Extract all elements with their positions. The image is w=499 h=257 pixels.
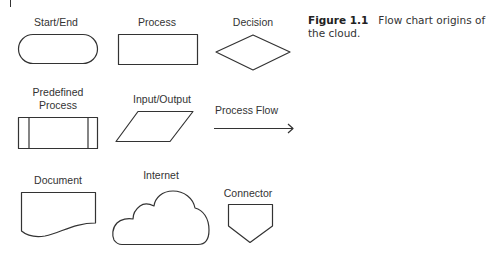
process-flow-arrow-icon (214, 124, 293, 133)
process-shape (119, 35, 198, 65)
input-output-label: Input/Output (133, 93, 191, 105)
start-end-shape (19, 35, 98, 64)
decision-label: Decision (233, 16, 273, 28)
connector-shape (229, 205, 273, 243)
predefined-process-label-line2: Process (39, 99, 77, 111)
figure-number: Figure 1.1 (308, 14, 368, 26)
internet-cloud-shape (113, 191, 209, 245)
process-label: Process (138, 16, 176, 28)
document-label: Document (34, 174, 82, 186)
input-output-shape (116, 112, 193, 142)
predefined-process-label-line1: Predefined (33, 86, 84, 98)
decision-shape (216, 35, 290, 70)
document-shape (22, 193, 96, 237)
connector-label: Connector (224, 187, 272, 199)
internet-label: Internet (143, 169, 179, 181)
process-flow-label: Process Flow (215, 104, 278, 116)
predefined-process-shape (19, 118, 98, 149)
figure-caption: Figure 1.1 Flow chart origins of the clo… (308, 14, 498, 40)
start-end-label: Start/End (34, 16, 78, 28)
